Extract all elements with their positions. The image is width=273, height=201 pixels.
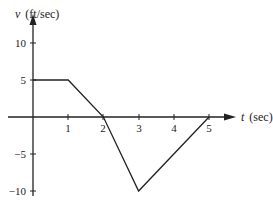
x-axis-unit: (sec) [249, 110, 272, 124]
y-axis-var: v [15, 7, 21, 21]
x-axis-arrow-icon [224, 114, 236, 121]
xtick-label-4: 4 [171, 122, 177, 134]
x-axis-title: t (sec) [241, 110, 273, 124]
velocity-series-line [33, 80, 209, 191]
ytick-label-10: 10 [15, 37, 27, 49]
y-axis-unit: (ft/sec) [25, 7, 59, 21]
x-axis-var: t [241, 110, 245, 124]
xtick-label-1: 1 [65, 122, 71, 134]
xtick-label-3: 3 [136, 122, 142, 134]
velocity-time-chart: 10 5 −5 −10 1 2 3 4 5 v (ft/sec) t (sec) [0, 0, 273, 201]
xtick-label-2: 2 [100, 122, 106, 134]
ytick-label-neg10: −10 [9, 185, 27, 197]
y-axis-title: v (ft/sec) [15, 7, 59, 21]
ytick-label-neg5: −5 [14, 148, 26, 160]
xtick-label-5: 5 [206, 122, 212, 134]
ytick-label-5: 5 [21, 74, 27, 86]
